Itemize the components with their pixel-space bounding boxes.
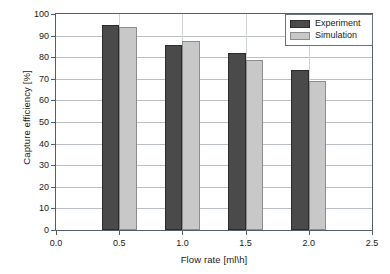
y-axis-tick-label: 80 bbox=[39, 52, 49, 62]
bars-layer bbox=[56, 14, 372, 230]
bar-experiment-1.5 bbox=[228, 53, 246, 230]
y-axis-tick bbox=[51, 208, 56, 209]
y-axis-tick bbox=[51, 57, 56, 58]
bar-experiment-2.0 bbox=[291, 70, 309, 230]
y-axis-tick bbox=[51, 36, 56, 37]
x-axis-title: Flow rate [ml\h] bbox=[55, 254, 373, 265]
x-axis-tick-label: 2.5 bbox=[366, 238, 379, 248]
legend-item-experiment: Experiment bbox=[290, 18, 368, 29]
x-axis-tick bbox=[309, 230, 310, 235]
y-axis-tick bbox=[51, 122, 56, 123]
bar-simulation-1.0 bbox=[182, 41, 200, 230]
y-axis-tick bbox=[51, 187, 56, 188]
bar-experiment-1.0 bbox=[165, 45, 183, 230]
bar-chart-figure: Capture efficiency [%] Flow rate [ml\h] … bbox=[0, 0, 390, 274]
y-axis-tick bbox=[51, 14, 56, 15]
y-axis-tick-label: 30 bbox=[39, 160, 49, 170]
x-axis-tick-label: 1.0 bbox=[176, 238, 189, 248]
legend-label: Experiment bbox=[315, 18, 361, 29]
bar-experiment-0.5 bbox=[102, 25, 120, 230]
y-axis-title: Capture efficiency [%] bbox=[21, 18, 32, 218]
y-axis-tick-label: 70 bbox=[39, 74, 49, 84]
y-axis-tick-label: 40 bbox=[39, 139, 49, 149]
bar-simulation-0.5 bbox=[119, 27, 137, 230]
x-axis-tick bbox=[372, 230, 373, 235]
x-axis-tick-label: 1.5 bbox=[239, 238, 252, 248]
bar-simulation-2.0 bbox=[309, 81, 327, 230]
x-axis-tick bbox=[56, 230, 57, 235]
y-axis-tick-label: 10 bbox=[39, 203, 49, 213]
y-axis-tick bbox=[51, 79, 56, 80]
y-axis-tick-label: 100 bbox=[34, 9, 49, 19]
x-axis-tick-label: 2.0 bbox=[303, 238, 316, 248]
y-axis-tick bbox=[51, 165, 56, 166]
y-axis-tick bbox=[51, 100, 56, 101]
y-axis-tick-label: 20 bbox=[39, 182, 49, 192]
y-axis-tick bbox=[51, 144, 56, 145]
x-axis-tick bbox=[119, 230, 120, 235]
x-axis-tick-label: 0.0 bbox=[50, 238, 63, 248]
x-axis-tick-label: 0.5 bbox=[113, 238, 126, 248]
x-axis-tick bbox=[182, 230, 183, 235]
y-axis-tick-label: 0 bbox=[44, 225, 49, 235]
y-axis-tick-label: 50 bbox=[39, 117, 49, 127]
y-axis-tick-label: 90 bbox=[39, 31, 49, 41]
chart-legend: ExperimentSimulation bbox=[285, 14, 373, 46]
legend-swatch-experiment bbox=[290, 20, 310, 28]
legend-label: Simulation bbox=[315, 30, 357, 41]
legend-swatch-simulation bbox=[290, 32, 310, 40]
x-axis-tick bbox=[246, 230, 247, 235]
legend-item-simulation: Simulation bbox=[290, 30, 368, 41]
bar-simulation-1.5 bbox=[246, 60, 264, 230]
y-axis-tick-label: 60 bbox=[39, 95, 49, 105]
